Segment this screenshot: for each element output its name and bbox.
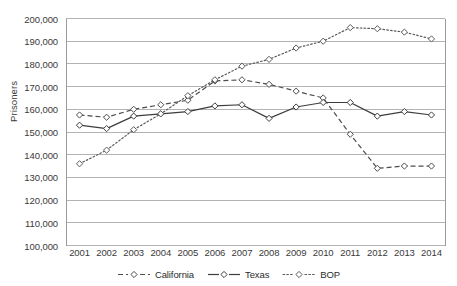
- series-line-bop: [80, 28, 432, 164]
- series-texas: [76, 99, 434, 131]
- legend-label: BOP: [320, 269, 340, 280]
- x-axis-tick-label: 2007: [232, 247, 253, 258]
- plot-area: [0, 0, 457, 286]
- x-axis-tick-label: 2002: [96, 247, 117, 258]
- data-point-marker: [104, 114, 110, 120]
- data-point-marker: [374, 113, 380, 119]
- data-point-marker: [158, 102, 164, 108]
- series-california: [76, 77, 434, 172]
- legend-entry-bop[interactable]: BOP: [282, 269, 340, 280]
- data-point-marker: [428, 163, 434, 169]
- data-point-marker: [76, 161, 82, 167]
- data-point-marker: [347, 99, 353, 105]
- data-point-marker: [131, 106, 137, 112]
- x-axis-tick-labels: 2001200220032004200520062007200820092010…: [0, 247, 457, 263]
- data-point-marker: [293, 88, 299, 94]
- x-axis-tick-label: 2001: [69, 247, 90, 258]
- data-point-marker: [239, 77, 245, 83]
- line-chart: Prisoners 100,000110,000120,000130,00014…: [0, 0, 457, 286]
- data-series-group: [76, 24, 434, 171]
- legend-label: California: [155, 269, 194, 280]
- x-axis-tick-label: 2006: [205, 247, 226, 258]
- x-axis-tick-label: 2008: [259, 247, 280, 258]
- data-point-marker: [76, 112, 82, 118]
- data-point-marker: [401, 29, 407, 35]
- data-point-marker: [266, 56, 272, 62]
- data-point-marker: [104, 126, 110, 132]
- data-point-marker: [104, 147, 110, 153]
- x-axis-tick-label: 2003: [123, 247, 144, 258]
- x-axis-tick-label: 2004: [150, 247, 171, 258]
- data-point-marker: [266, 115, 272, 121]
- legend-label: Texas: [245, 269, 269, 280]
- dashed-line-with-diamond-marker: [117, 269, 151, 280]
- x-axis-tick-label: 2012: [367, 247, 388, 258]
- chart-legend: CaliforniaTexasBOP: [0, 264, 457, 284]
- x-axis-tick-label: 2010: [313, 247, 334, 258]
- solid-line-with-diamond-marker: [207, 269, 241, 280]
- data-point-marker: [131, 113, 137, 119]
- data-point-marker: [185, 93, 191, 99]
- data-point-marker: [158, 111, 164, 117]
- data-point-marker: [347, 24, 353, 30]
- x-axis-tick-label: 2014: [421, 247, 442, 258]
- data-point-marker: [374, 26, 380, 32]
- x-axis-tick-label: 2005: [177, 247, 198, 258]
- series-bop: [76, 24, 434, 166]
- x-axis-tick-label: 2009: [286, 247, 307, 258]
- data-point-marker: [76, 122, 82, 128]
- gridlines: [66, 19, 445, 246]
- legend-entry-california[interactable]: California: [117, 269, 194, 280]
- x-axis-tick-label: 2011: [340, 247, 360, 258]
- legend-entry-texas[interactable]: Texas: [207, 269, 269, 280]
- data-point-marker: [401, 163, 407, 169]
- dotted-line-with-diamond-marker: [282, 269, 316, 280]
- data-point-marker: [293, 45, 299, 51]
- data-point-marker: [428, 112, 434, 118]
- data-point-marker: [239, 102, 245, 108]
- x-axis-tick-label: 2013: [394, 247, 415, 258]
- data-point-marker: [212, 103, 218, 109]
- data-point-marker: [320, 38, 326, 44]
